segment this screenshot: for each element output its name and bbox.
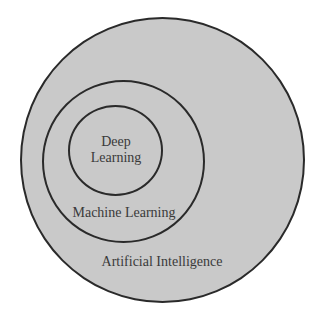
deep-learning-label-line2: Learning bbox=[91, 150, 142, 166]
deep-learning-label: Deep Learning bbox=[91, 134, 142, 166]
ai-ml-dl-nested-diagram: Deep Learning Machine Learning Artificia… bbox=[0, 0, 318, 325]
deep-learning-label-line1: Deep bbox=[91, 134, 142, 150]
artificial-intelligence-label: Artificial Intelligence bbox=[102, 254, 223, 270]
machine-learning-label: Machine Learning bbox=[72, 205, 175, 221]
